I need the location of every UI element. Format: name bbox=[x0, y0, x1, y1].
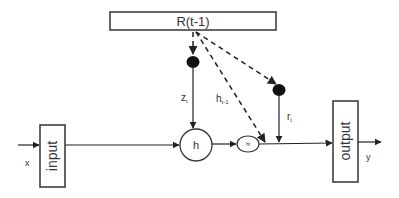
ht-to-output-arrow bbox=[259, 143, 332, 144]
y-label: y bbox=[366, 152, 371, 162]
dashed-arrow-to-r-gate bbox=[196, 32, 276, 84]
candidate-node-label: ht bbox=[246, 141, 251, 147]
h-prev-label: ht-1 bbox=[216, 93, 229, 105]
hidden-node: h bbox=[180, 129, 212, 161]
recurrent-state-label: R(t-1) bbox=[176, 14, 209, 29]
recurrent-state-box: R(t-1) bbox=[110, 12, 276, 30]
dashed-connections bbox=[193, 32, 276, 142]
r-gate-label: rt bbox=[287, 111, 292, 123]
rnn-gate-diagram: R(t-1) zt ht-1 rt input x h ht output bbox=[0, 0, 399, 198]
x-label: x bbox=[25, 158, 30, 168]
dashed-arrow-h-prev bbox=[196, 32, 265, 142]
input-label: input bbox=[44, 141, 60, 171]
z-gate-label: zt bbox=[181, 92, 188, 104]
input-box: input bbox=[40, 125, 65, 187]
output-box: output bbox=[333, 101, 358, 182]
z-gate-dot bbox=[187, 56, 200, 68]
r-gate-dot bbox=[273, 84, 286, 96]
hidden-node-label: h bbox=[193, 139, 199, 151]
output-label: output bbox=[337, 121, 353, 160]
candidate-node: ht bbox=[237, 136, 259, 152]
